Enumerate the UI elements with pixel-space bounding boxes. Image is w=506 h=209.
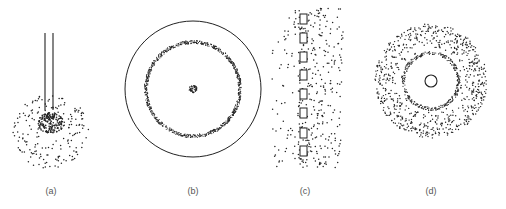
panel-b-label: (b) <box>188 186 199 196</box>
panel-b-graphic <box>125 21 261 157</box>
panel-a-label: (a) <box>46 186 57 196</box>
panel-c-graphic <box>271 8 343 168</box>
panel-c-label: (c) <box>300 186 311 196</box>
figure: (a) (b) (c) (d) <box>0 0 506 209</box>
panel-d-graphic <box>374 24 487 139</box>
panel-a-graphic <box>12 33 89 168</box>
panel-d-label: (d) <box>426 186 437 196</box>
particle-distribution-diagram <box>0 0 506 209</box>
